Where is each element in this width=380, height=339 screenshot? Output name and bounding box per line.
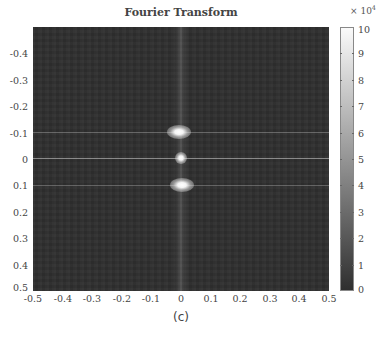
x-tick: 0.1 [203,293,218,304]
x-tick: -0.1 [142,293,160,304]
colorbar-tick: 8 [358,75,364,86]
colorbar-tick: 5 [358,154,364,165]
x-tick: 0.3 [262,293,277,304]
colorbar-tick-mark [340,159,354,160]
x-tick: 0.2 [232,293,247,304]
y-tick: 0.4 [13,260,28,271]
peak-top [167,125,191,139]
colorbar-tick: 2 [358,233,364,244]
y-tick: 0.2 [13,207,28,218]
colorbar-tick-mark [340,80,354,81]
y-tick: 0.3 [13,233,28,244]
peak-bottom [170,178,194,192]
colorbar-exponent-label: × 104 [350,4,376,16]
y-tick: 0.1 [13,180,28,191]
colorbar-tick: 0 [358,284,364,295]
y-tick: -0.3 [10,75,28,86]
colorbar-tick: 9 [358,48,364,59]
x-tick: 0.4 [291,293,306,304]
x-tick: -0.2 [113,293,131,304]
colorbar-tick: 1 [358,260,364,271]
x-tick: -0.5 [24,293,42,304]
y-tick: -0.4 [10,48,28,59]
heatmap-plot-area [33,27,329,291]
figure-caption: (c) [33,310,329,324]
colorbar-tick-mark [340,53,354,54]
x-tick: 0 [178,293,184,304]
colorbar-tick-mark [340,133,354,134]
y-tick: -0.1 [10,128,28,139]
y-tick: 0 [22,154,28,165]
x-tick: -0.4 [54,293,72,304]
peak-center [175,152,187,164]
colorbar-tick: 10 [358,24,370,35]
colorbar-tick-mark [340,265,354,266]
x-tick: -0.3 [83,293,101,304]
colorbar-tick-mark [340,212,354,213]
colorbar-tick-mark [340,185,354,186]
x-tick: 0.5 [321,293,336,304]
y-tick: -0.2 [10,101,28,112]
colorbar-tick: 6 [358,128,364,139]
y-tick: 0.5 [13,282,28,293]
chart-title: Fourier Transform [33,6,329,19]
colorbar-tick: 3 [358,207,364,218]
colorbar-tick: 7 [358,101,364,112]
colorbar-tick: 4 [358,180,364,191]
colorbar-tick-mark [340,238,354,239]
colorbar-tick-mark [340,106,354,107]
